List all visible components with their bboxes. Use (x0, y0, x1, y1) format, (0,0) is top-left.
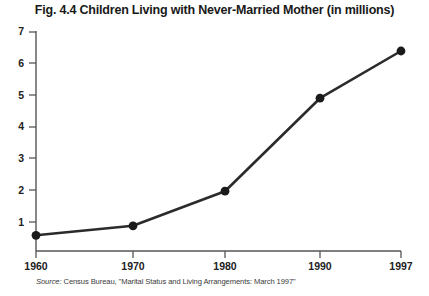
data-point-1990 (316, 94, 325, 103)
data-series-line (36, 51, 401, 235)
y-tick-label-3: 3 (6, 153, 24, 164)
source-note: Source: Census Bureau, "Marital Status a… (36, 277, 296, 286)
x-tick-label-1990: 1990 (297, 261, 343, 272)
figure-container: Fig. 4.4 Children Living with Never-Marr… (0, 0, 429, 296)
y-tick-label-6: 6 (6, 58, 24, 69)
data-point-1980 (221, 187, 230, 196)
data-point-1997 (397, 47, 406, 56)
source-label: Source: (36, 277, 61, 286)
y-tick-label-7: 7 (6, 26, 24, 37)
data-point-markers (32, 47, 406, 240)
x-tick-label-1997: 1997 (378, 261, 424, 272)
y-tick-label-1: 1 (6, 217, 24, 228)
data-point-1960 (32, 231, 41, 240)
x-tick-label-1970: 1970 (110, 261, 156, 272)
y-tick-label-2: 2 (6, 185, 24, 196)
y-tick-label-4: 4 (6, 121, 24, 132)
y-axis-ticks (29, 32, 36, 222)
x-tick-label-1960: 1960 (13, 261, 59, 272)
source-text: Census Bureau, "Marital Status and Livin… (61, 277, 295, 286)
line-chart-plot (0, 0, 429, 296)
x-axis-ticks (36, 251, 401, 258)
data-point-1970 (129, 221, 138, 230)
x-tick-label-1980: 1980 (202, 261, 248, 272)
y-tick-label-5: 5 (6, 90, 24, 101)
